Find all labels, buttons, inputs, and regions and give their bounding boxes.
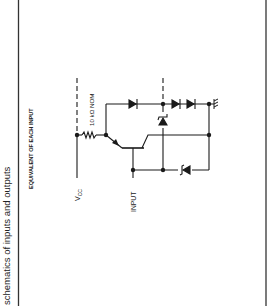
section-title: schematics of inputs and outputs [1,166,12,305]
diode-icon [129,100,136,108]
input-label: INPUT [130,192,137,212]
zener-diode-horizontal-icon [178,164,192,176]
vcc-node [75,133,79,137]
zener-diode-vertical-icon [158,112,168,128]
diagram-title: EQUIVALENT OF EACH INPUT [28,108,34,189]
datasheet-page: schematics of inputs and outputs EQUIVAL… [0,0,269,306]
vcc-label: VCC [74,189,83,201]
diode-icon [172,100,179,108]
input-node [131,168,135,172]
circuit-wires [77,78,209,178]
resistor-label: 10 kΩ NOM [88,94,95,126]
resistor-symbol [82,132,96,138]
collector-lead [142,135,209,148]
diode-icon [187,100,194,108]
schematic-diagram: schematics of inputs and outputs EQUIVAL… [0,0,269,306]
